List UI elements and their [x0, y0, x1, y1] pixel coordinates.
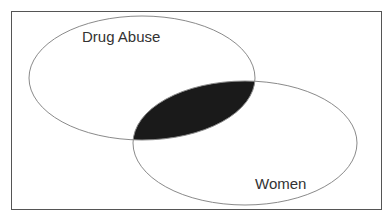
venn-diagram: Drug Abuse Women [0, 0, 391, 221]
set-drug-abuse-label: Drug Abuse [82, 28, 160, 45]
set-women-label: Women [255, 175, 306, 192]
